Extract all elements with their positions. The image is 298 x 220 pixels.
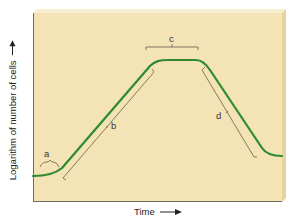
panel-right-bevel (282, 9, 286, 202)
x-axis-label-text: Time (134, 206, 155, 217)
x-axis-label: Time (134, 206, 183, 217)
label-a-lag-phase: a (44, 148, 49, 159)
label-b-log-phase: b (111, 120, 116, 131)
panel-face (33, 13, 282, 202)
label-d-death-phase: d (216, 110, 221, 121)
panel-top-bevel (33, 9, 286, 13)
chart-panel (0, 0, 298, 220)
y-axis-label-text: Logarithm of number of cells (7, 60, 18, 180)
label-c-stationary-phase: c (169, 33, 174, 44)
arrow-up-icon (9, 40, 17, 58)
growth-curve-figure: a b c d Logarithm of number of cells Tim… (0, 0, 298, 220)
y-axis-label: Logarithm of number of cells (7, 40, 18, 181)
arrow-right-icon (157, 208, 183, 216)
